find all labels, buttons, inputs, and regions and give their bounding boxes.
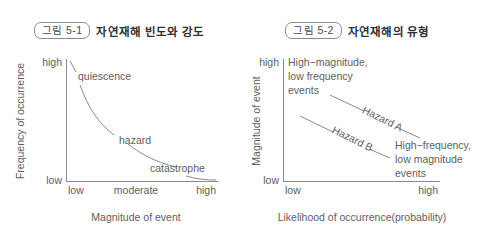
- hazard-a-label: Hazard A: [361, 104, 405, 134]
- figure-5-2-xtick-low: low: [285, 184, 301, 196]
- figure-5-1-xtick-moderate: moderate: [114, 184, 159, 196]
- note-high-frequency-line-3: events: [395, 167, 426, 179]
- figure-5-1-y-axis-title: Frequency of occurrence: [14, 63, 26, 179]
- hazard-b-label: Hazard B: [330, 123, 375, 153]
- note-high-magnitude-line-3: events: [288, 84, 319, 96]
- figure-5-1-x-axis-title: Magnitude of event: [91, 211, 180, 223]
- note-high-frequency-line-1: High−frequency,: [395, 139, 471, 151]
- figure-5-2-x-axis-title: Likelihood of occurrence(probability): [278, 211, 447, 223]
- curve-segment-quiescence: [70, 61, 76, 72]
- curve-segment-catastrophe: [186, 176, 216, 180]
- figure-5-2-plot: high low low high Hazard A Hazard B High…: [238, 45, 477, 236]
- note-high-frequency-line-2: low magnitude: [395, 153, 463, 165]
- figure-5-2-y-axis-title: Magnitude of event: [250, 76, 262, 165]
- figure-5-2-caption: 그림 5-2 자연재해의 유형: [238, 22, 477, 39]
- hazard-b-line-left: [300, 116, 333, 132]
- figure-5-2-title: 자연재해의 유형: [348, 23, 430, 39]
- figure-5-1-xtick-high: high: [196, 184, 216, 196]
- curve-segment-upper: [80, 85, 114, 135]
- figure-5-1: 그림 5-1 자연재해 빈도와 강도 high low low moderate…: [0, 0, 238, 236]
- figure-5-1-ytick-low: low: [46, 174, 62, 186]
- curve-label-hazard: hazard: [119, 134, 151, 146]
- figure-5-2-ytick-low: low: [263, 174, 279, 186]
- figure-5-2-tag: 그림 5-2: [285, 22, 342, 39]
- figure-5-1-plot: high low low moderate high quiescence ha…: [0, 45, 238, 236]
- curve-label-catastrophe: catastrophe: [150, 162, 205, 174]
- figure-5-1-ytick-high: high: [42, 56, 62, 68]
- note-high-magnitude-line-2: low frequency: [288, 70, 354, 82]
- curve-label-quiescence: quiescence: [78, 70, 131, 82]
- figure-5-2-xtick-high: high: [418, 184, 438, 196]
- figure-5-2: 그림 5-2 자연재해의 유형 high low low high Hazard…: [238, 0, 477, 236]
- figure-5-1-xtick-low: low: [68, 184, 84, 196]
- hazard-a-line-right: [400, 129, 420, 138]
- hazard-a-line-left: [330, 95, 364, 111]
- note-high-magnitude-line-1: High−magnitude,: [288, 56, 368, 68]
- figure-5-1-caption: 그림 5-1 자연재해 빈도와 강도: [0, 22, 238, 39]
- figure-5-2-ytick-high: high: [259, 56, 279, 68]
- hazard-b-line-right: [369, 149, 390, 158]
- figure-5-1-tag: 그림 5-1: [34, 22, 91, 39]
- figure-5-1-title: 자연재해 빈도와 강도: [96, 23, 204, 39]
